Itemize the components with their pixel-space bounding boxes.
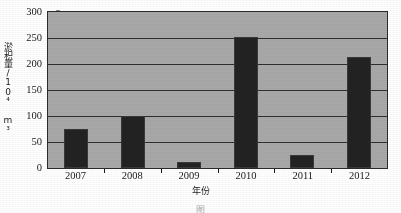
y-tick-label: 0 [12, 162, 42, 173]
bar-slot [218, 12, 275, 168]
x-tick-label: 2008 [104, 170, 161, 184]
y-tick-label: 250 [12, 32, 42, 43]
bar-slot [161, 12, 218, 168]
plot-area [47, 11, 388, 169]
y-tick-label: 300 [12, 6, 42, 17]
x-tick-label: 2007 [47, 170, 104, 184]
x-tick-label: 2011 [274, 170, 331, 184]
bar-slot [274, 12, 331, 168]
x-tick-mark [331, 169, 332, 173]
bar [347, 57, 371, 168]
bar [290, 155, 314, 168]
x-tick-mark [161, 169, 162, 173]
y-axis-tick-labels: 050100150200250300 [12, 10, 42, 169]
x-tick-label: 2012 [331, 170, 388, 184]
bar [64, 129, 88, 168]
y-tick-label: 100 [12, 110, 42, 121]
bar-slot [331, 12, 388, 168]
bar-chart-figure: 淤积量/10⁴ m³ 050100150200250300 2007200820… [0, 0, 401, 213]
x-tick-mark [274, 169, 275, 173]
x-tick-mark [218, 169, 219, 173]
x-tick-label: 2010 [217, 170, 274, 184]
x-tick-label: 2009 [161, 170, 218, 184]
figure-caption: 图 [0, 203, 401, 213]
y-tick-label: 150 [12, 84, 42, 95]
bar [234, 37, 258, 168]
bar-slot [105, 12, 162, 168]
x-tick-mark [104, 169, 105, 173]
bar-series [48, 12, 387, 168]
bar [177, 162, 201, 168]
bar [121, 116, 145, 168]
y-tick-label: 200 [12, 58, 42, 69]
x-axis-title: 年份 [0, 184, 401, 197]
y-tick-label: 50 [12, 136, 42, 147]
bar-slot [48, 12, 105, 168]
